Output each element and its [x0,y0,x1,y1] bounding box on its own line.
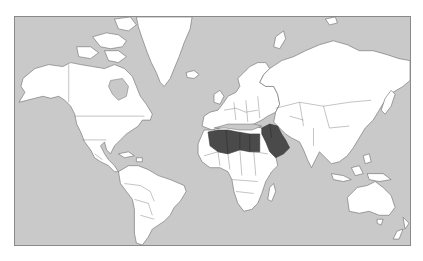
map-canvas [15,17,410,245]
world-map [14,16,411,246]
